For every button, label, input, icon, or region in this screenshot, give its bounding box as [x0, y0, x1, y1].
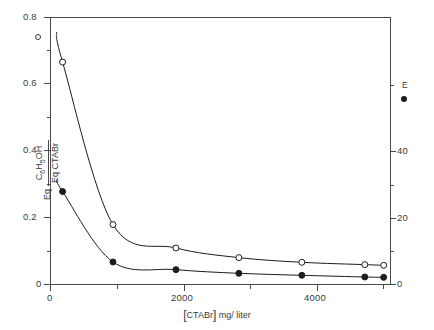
data-point-filled-circle-series-0 [60, 189, 66, 195]
data-point-filled-circle-series-5 [362, 274, 368, 280]
data-point-open-circle-series-2 [173, 245, 179, 251]
data-point-open-circle-series-3 [236, 255, 242, 261]
legend-filled-circle-marker [401, 96, 407, 102]
data-point-open-circle-series-0 [60, 59, 66, 65]
data-point-filled-circle-series-6 [381, 274, 387, 280]
legend-letter-E: E [402, 80, 408, 90]
data-point-filled-circle-series-4 [299, 272, 305, 278]
data-curves [0, 0, 434, 330]
data-point-open-circle-series-5 [362, 262, 368, 268]
data-point-filled-circle-series-1 [110, 259, 116, 265]
series-line-filled-circle-series [56, 179, 383, 277]
data-point-open-circle-series-6 [381, 262, 387, 268]
data-point-open-circle-series-1 [110, 222, 116, 228]
series-line-open-circle-series [56, 32, 383, 265]
legend-open-circle-marker [35, 34, 41, 40]
data-point-open-circle-series-4 [299, 259, 305, 265]
data-point-filled-circle-series-3 [236, 270, 242, 276]
chart-figure: 0.8 0.6 0.4 0.2 0 40 20 0 0 2000 4000 Eq… [0, 0, 434, 330]
data-point-filled-circle-series-2 [173, 267, 179, 273]
